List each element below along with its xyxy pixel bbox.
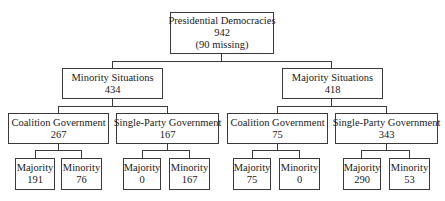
node-value: 0 <box>139 174 144 186</box>
node-value: 290 <box>354 174 370 186</box>
connector <box>299 150 300 158</box>
node-value: 418 <box>325 84 341 96</box>
node-label: Majority <box>344 162 381 174</box>
minority-situations-node: Minority Situations 434 <box>62 68 163 99</box>
connector <box>252 150 300 151</box>
connector <box>189 150 190 158</box>
node-label: Presidential Democracies <box>169 15 276 27</box>
connector <box>167 106 168 113</box>
node-label: Minority <box>281 162 318 174</box>
connector <box>112 98 113 106</box>
node-value: 343 <box>379 129 395 141</box>
node-label: Single-Party Government <box>114 117 222 129</box>
connector <box>386 106 387 113</box>
node-note: (90 missing) <box>196 39 249 51</box>
leaf-node: Minority 167 <box>169 158 210 190</box>
leaf-node: Majority 75 <box>233 158 271 190</box>
node-value: 191 <box>27 174 43 186</box>
majority-situations-node: Majority Situations 418 <box>282 68 383 99</box>
leaf-node: Majority 0 <box>123 158 161 190</box>
connector <box>112 61 332 62</box>
maj-single-party-node: Single-Party Government 343 <box>335 113 438 144</box>
connector <box>331 98 332 106</box>
connector <box>331 61 332 68</box>
node-value: 76 <box>76 174 87 186</box>
node-label: Majority <box>234 162 271 174</box>
connector <box>221 53 222 61</box>
connector <box>142 150 190 151</box>
leaf-node: Minority 0 <box>279 158 320 190</box>
connector <box>277 106 387 107</box>
connector <box>58 106 59 113</box>
node-value: 267 <box>51 129 67 141</box>
connector <box>277 106 278 113</box>
node-value: 75 <box>272 129 283 141</box>
connector <box>35 150 82 151</box>
node-label: Coalition Government <box>230 117 324 129</box>
node-value: 0 <box>297 174 302 186</box>
connector <box>142 150 143 158</box>
connector <box>277 143 278 150</box>
node-value: 53 <box>404 174 415 186</box>
node-value: 434 <box>105 84 121 96</box>
node-value: 167 <box>182 174 198 186</box>
node-label: Majority <box>124 162 161 174</box>
connector <box>361 150 362 158</box>
root-node: Presidential Democracies 942 (90 missing… <box>170 12 274 54</box>
node-label: Minority Situations <box>72 72 154 84</box>
leaf-node: Minority 53 <box>389 158 430 190</box>
connector <box>58 106 168 107</box>
node-label: Minority <box>171 162 208 174</box>
leaf-node: Majority 290 <box>343 158 381 190</box>
node-label: Majority <box>17 162 54 174</box>
node-value: 167 <box>160 129 176 141</box>
connector <box>58 143 59 150</box>
connector <box>252 150 253 158</box>
node-value: 942 <box>214 27 230 39</box>
maj-coalition-node: Coalition Government 75 <box>227 113 328 144</box>
leaf-node: Minority 76 <box>61 158 102 190</box>
connector <box>386 143 387 150</box>
node-value: 75 <box>247 174 258 186</box>
node-label: Coalition Government <box>11 117 105 129</box>
leaf-node: Majority 191 <box>15 158 55 190</box>
node-label: Majority Situations <box>292 72 373 84</box>
node-label: Single-Party Government <box>333 117 441 129</box>
connector <box>361 150 410 151</box>
connector <box>167 143 168 150</box>
connector <box>81 150 82 158</box>
min-single-party-node: Single-Party Government 167 <box>116 113 219 144</box>
connector <box>112 61 113 68</box>
node-label: Minority <box>63 162 100 174</box>
connector <box>35 150 36 158</box>
min-coalition-node: Coalition Government 267 <box>8 113 109 144</box>
node-label: Minority <box>391 162 428 174</box>
connector <box>409 150 410 158</box>
